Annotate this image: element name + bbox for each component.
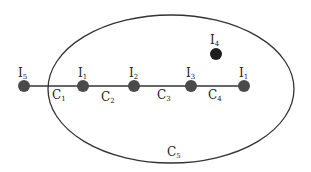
node-i1-right bbox=[238, 80, 250, 92]
node-i1-left bbox=[77, 80, 89, 92]
node-i4 bbox=[210, 48, 222, 60]
label-i5: I5 bbox=[18, 66, 27, 81]
label-i1-right: I1 bbox=[239, 66, 248, 81]
label-c1: C1 bbox=[52, 88, 66, 103]
label-c4: C4 bbox=[208, 88, 222, 103]
diagram-canvas: I5 I1 I2 I3 I1 I4 C1 C2 C3 C4 C5 bbox=[0, 0, 311, 172]
label-i4: I4 bbox=[210, 33, 220, 48]
label-i1-left: I1 bbox=[78, 66, 87, 81]
node-i2 bbox=[128, 80, 140, 92]
label-c2: C2 bbox=[101, 90, 115, 105]
node-i5 bbox=[18, 80, 30, 92]
label-c3: C3 bbox=[157, 88, 171, 103]
node-i3 bbox=[185, 80, 197, 92]
label-i3: I3 bbox=[186, 66, 195, 81]
label-c5: C5 bbox=[167, 145, 181, 160]
label-i2: I2 bbox=[129, 66, 138, 81]
